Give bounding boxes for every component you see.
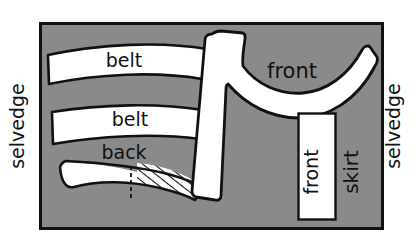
pattern-layout-diagram: selvedge selvedge belt belt back front f… bbox=[0, 0, 420, 244]
diagram-canvas: selvedge selvedge belt belt back front f… bbox=[0, 0, 420, 244]
label-belt-upper: belt bbox=[106, 49, 142, 71]
label-front-skirt-outer: skirt bbox=[339, 150, 363, 194]
label-front-bodice: front bbox=[267, 59, 317, 83]
label-selvedge-left: selvedge bbox=[6, 83, 28, 169]
label-front-skirt-inner: front bbox=[300, 149, 322, 194]
label-belt-lower: belt bbox=[112, 108, 148, 130]
label-back: back bbox=[101, 141, 146, 163]
label-selvedge-right: selvedge bbox=[382, 83, 404, 169]
